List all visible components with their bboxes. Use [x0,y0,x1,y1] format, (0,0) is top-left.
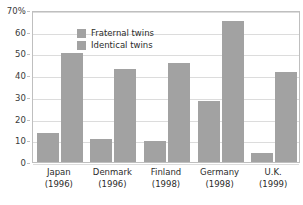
legend-label: Identical twins [91,41,153,50]
x-tick-year: (1996) [32,179,86,191]
y-tick-mark [27,54,30,55]
bar-identical [61,53,83,162]
x-tick-label: Germany(1998) [193,167,247,190]
x-tick-year: (1999) [246,179,300,191]
y-tick-label: 40 [15,71,26,81]
bar-identical [168,63,190,162]
legend-swatch-icon [77,29,86,38]
bar-identical [114,69,136,162]
legend-item-identical: Identical twins [77,41,154,50]
x-tick-country: Japan [47,167,71,177]
y-tick-label: 30 [15,93,26,103]
x-axis: Japan(1996)Denmark(1996)Finland(1998)Ger… [32,167,300,203]
x-tick-label: U.K.(1999) [246,167,300,190]
legend-item-fraternal: Fraternal twins [77,29,154,38]
x-tick-country: Germany [200,167,239,177]
y-tick-mark [27,141,30,142]
bar-fraternal [144,141,166,162]
chart-legend: Fraternal twins Identical twins [77,29,154,50]
x-tick-label: Japan(1996) [32,167,86,190]
plot-area: Fraternal twins Identical twins [32,11,300,163]
y-tick-label: 50 [15,49,26,59]
x-tick-country: Finland [151,167,181,177]
bar-identical [275,72,297,162]
y-tick-label: 60 [15,28,26,38]
y-tick-label: 70% [7,6,26,16]
y-tick-mark [27,163,30,164]
y-tick-mark [27,98,30,99]
chart-container: 010203040506070% Fraternal twins Identic… [0,0,303,205]
y-tick-mark [27,120,30,121]
bar-fraternal [90,139,112,162]
y-tick-mark [27,11,30,12]
gridline [33,164,299,165]
x-tick-year: (1998) [193,179,247,191]
y-tick-mark [27,33,30,34]
bar-group [249,12,299,162]
bar-identical [222,21,244,162]
legend-label: Fraternal twins [91,29,154,38]
x-tick-country: Denmark [93,167,132,177]
bar-group [196,12,246,162]
y-tick-label: 20 [15,115,26,125]
x-tick-label: Finland(1998) [139,167,193,190]
bar-fraternal [198,101,220,162]
bars-layer [33,12,299,162]
bar-fraternal [251,153,273,162]
y-tick-mark [27,76,30,77]
y-tick-label: 0 [20,158,26,168]
x-tick-country: U.K. [265,167,282,177]
x-tick-label: Denmark(1996) [86,167,140,190]
y-axis: 010203040506070% [0,11,30,163]
y-tick-label: 10 [15,136,26,146]
bar-fraternal [37,133,59,162]
legend-swatch-icon [77,41,86,50]
x-tick-year: (1996) [86,179,140,191]
x-tick-year: (1998) [139,179,193,191]
